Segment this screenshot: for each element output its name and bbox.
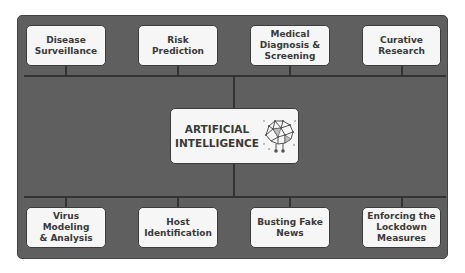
stem-bottom-4 <box>401 197 403 207</box>
node-label-line: Curative <box>378 35 425 46</box>
node-label-line: Medical <box>260 29 320 40</box>
node-label-line: Busting Fake <box>257 217 323 228</box>
node-curative-research: CurativeResearch <box>362 25 441 66</box>
node-label-line: Disease <box>35 35 97 46</box>
node-label-line: Risk <box>152 35 204 46</box>
node-risk-prediction: RiskPrediction <box>138 25 218 66</box>
node-medical-diagnosis-screening: MedicalDiagnosis &Screening <box>250 25 330 66</box>
node-enforcing-lockdown-measures: Enforcing theLockdownMeasures <box>362 207 441 248</box>
node-label-line: Research <box>378 46 425 57</box>
center-title-line2: INTELLIGENCE <box>175 136 259 150</box>
node-label-line: Lockdown <box>367 222 435 233</box>
stem-bottom-1 <box>65 197 67 207</box>
node-host-identification: HostIdentification <box>138 207 218 248</box>
stem-bottom-2 <box>177 197 179 207</box>
node-busting-fake-news: Busting FakeNews <box>250 207 330 248</box>
node-label-line: & Analysis <box>31 233 101 244</box>
node-label-line: Diagnosis & <box>260 40 320 51</box>
brain-network-icon <box>261 116 297 156</box>
center-title: ARTIFICIAL INTELLIGENCE <box>171 122 259 150</box>
node-label-line: Virus Modeling <box>31 211 101 233</box>
top-connector-line <box>24 75 446 77</box>
stem-top-1 <box>65 65 67 76</box>
node-disease-surveillance: DiseaseSurveillance <box>26 25 106 66</box>
node-label-line: Prediction <box>152 46 204 57</box>
bottom-connector-line <box>24 196 446 198</box>
center-title-line1: ARTIFICIAL <box>175 122 259 136</box>
node-label-line: Identification <box>144 228 212 239</box>
center-node-artificial-intelligence: ARTIFICIAL INTELLIGENCE <box>170 108 299 164</box>
node-label-line: Screening <box>260 51 320 62</box>
node-label-line: Measures <box>367 233 435 244</box>
stem-top-3 <box>289 65 291 76</box>
stem-bottom-3 <box>289 197 291 207</box>
node-virus-modeling-analysis: Virus Modeling& Analysis <box>26 207 106 248</box>
stem-top-2 <box>177 65 179 76</box>
node-label-line: Enforcing the <box>367 211 435 222</box>
node-label-line: News <box>257 228 323 239</box>
stem-top-4 <box>401 65 403 76</box>
node-label-line: Surveillance <box>35 46 97 57</box>
node-label-line: Host <box>144 217 212 228</box>
